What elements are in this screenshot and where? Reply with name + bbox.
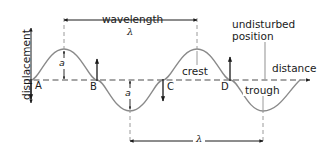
wavelength-label: wavelength <box>102 13 163 25</box>
displacement-axis-label: displacement <box>20 29 32 100</box>
lambda-bottom-label: λ <box>193 133 205 145</box>
point-label-A: A <box>35 80 42 92</box>
point-label-D: D <box>221 81 229 93</box>
point-label-B: B <box>90 81 97 93</box>
lambda-top-label: λ <box>127 26 133 38</box>
wave-curve <box>31 49 300 111</box>
undisturbed-position-label-line1: undisturbed <box>232 18 295 30</box>
amplitude-upper-label: a <box>57 58 67 69</box>
distance-axis-label: distance <box>272 62 317 74</box>
wave-curve-path <box>31 49 300 111</box>
trough-label: trough <box>243 84 282 96</box>
undisturbed-position-label-line2: position <box>232 30 274 42</box>
crest-label: crest <box>180 65 210 77</box>
wave-diagram: displacement distance wavelength λ λ a a… <box>0 0 323 161</box>
point-label-C: C <box>167 81 174 93</box>
amplitude-lower-label: a <box>123 88 133 99</box>
